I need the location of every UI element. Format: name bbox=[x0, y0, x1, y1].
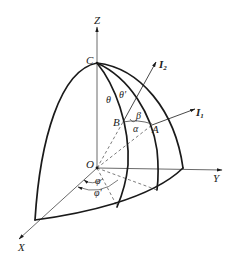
equator-xy bbox=[35, 168, 183, 220]
surface-outline bbox=[35, 63, 183, 220]
apex-point bbox=[96, 62, 98, 64]
y-axis bbox=[97, 168, 222, 170]
point-a-label: A bbox=[151, 123, 159, 135]
origin-point bbox=[96, 167, 99, 170]
phi-label: φ bbox=[95, 175, 101, 186]
axes bbox=[19, 27, 222, 239]
origin-label: O bbox=[86, 158, 94, 170]
theta-prime-label: θ' bbox=[119, 89, 127, 100]
x-axis bbox=[19, 168, 97, 239]
vector-i2-label: I2 bbox=[158, 58, 167, 72]
z-axis-label: Z bbox=[94, 14, 101, 26]
vector-i1-label: I1 bbox=[195, 106, 204, 120]
theta-label: θ bbox=[106, 94, 111, 105]
spherical-coordinate-diagram: Z Y X O C B A I2 I1 θ θ' β α φ φ' bbox=[0, 0, 235, 260]
phi-prime-label: φ' bbox=[94, 187, 103, 198]
point-b-label: B bbox=[113, 116, 120, 128]
beta-label: β bbox=[135, 110, 141, 121]
alpha-label: α bbox=[133, 123, 139, 134]
x-axis-label: X bbox=[17, 241, 26, 253]
apex-label: C bbox=[86, 54, 94, 66]
meridian-b bbox=[97, 63, 128, 207]
y-axis-label: Y bbox=[213, 172, 221, 184]
